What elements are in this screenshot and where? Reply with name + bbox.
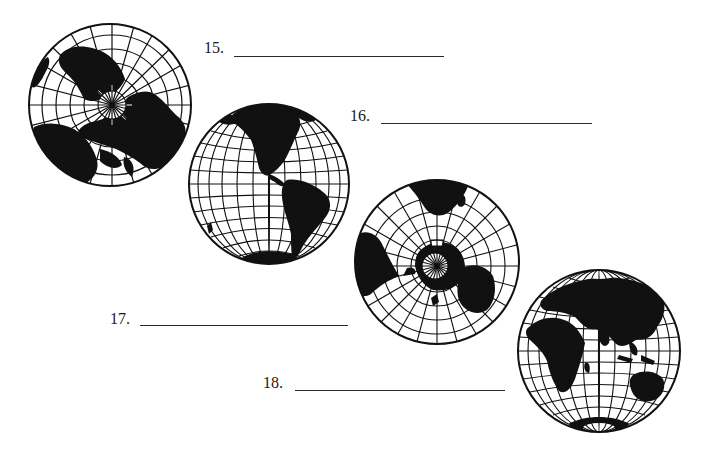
question-18-number: 18. xyxy=(263,375,283,391)
question-17-number: 17. xyxy=(110,311,130,327)
question-15-answer-line[interactable] xyxy=(234,56,444,57)
question-15-number: 15. xyxy=(204,40,224,56)
globe-eastern-hemisphere xyxy=(516,268,682,434)
western-hemisphere-globe-icon xyxy=(186,101,352,267)
question-18-answer-line[interactable] xyxy=(295,390,505,391)
question-16-number: 16. xyxy=(350,108,370,124)
globe-south-pole xyxy=(353,178,521,346)
question-17-answer-line[interactable] xyxy=(140,325,348,326)
globe-north-pole xyxy=(27,22,193,188)
south-polar-globe-icon xyxy=(353,178,521,346)
eastern-hemisphere-globe-icon xyxy=(516,268,682,434)
question-16-answer-line[interactable] xyxy=(381,123,592,124)
north-polar-globe-icon xyxy=(27,22,193,188)
globe-western-hemisphere xyxy=(186,101,352,267)
